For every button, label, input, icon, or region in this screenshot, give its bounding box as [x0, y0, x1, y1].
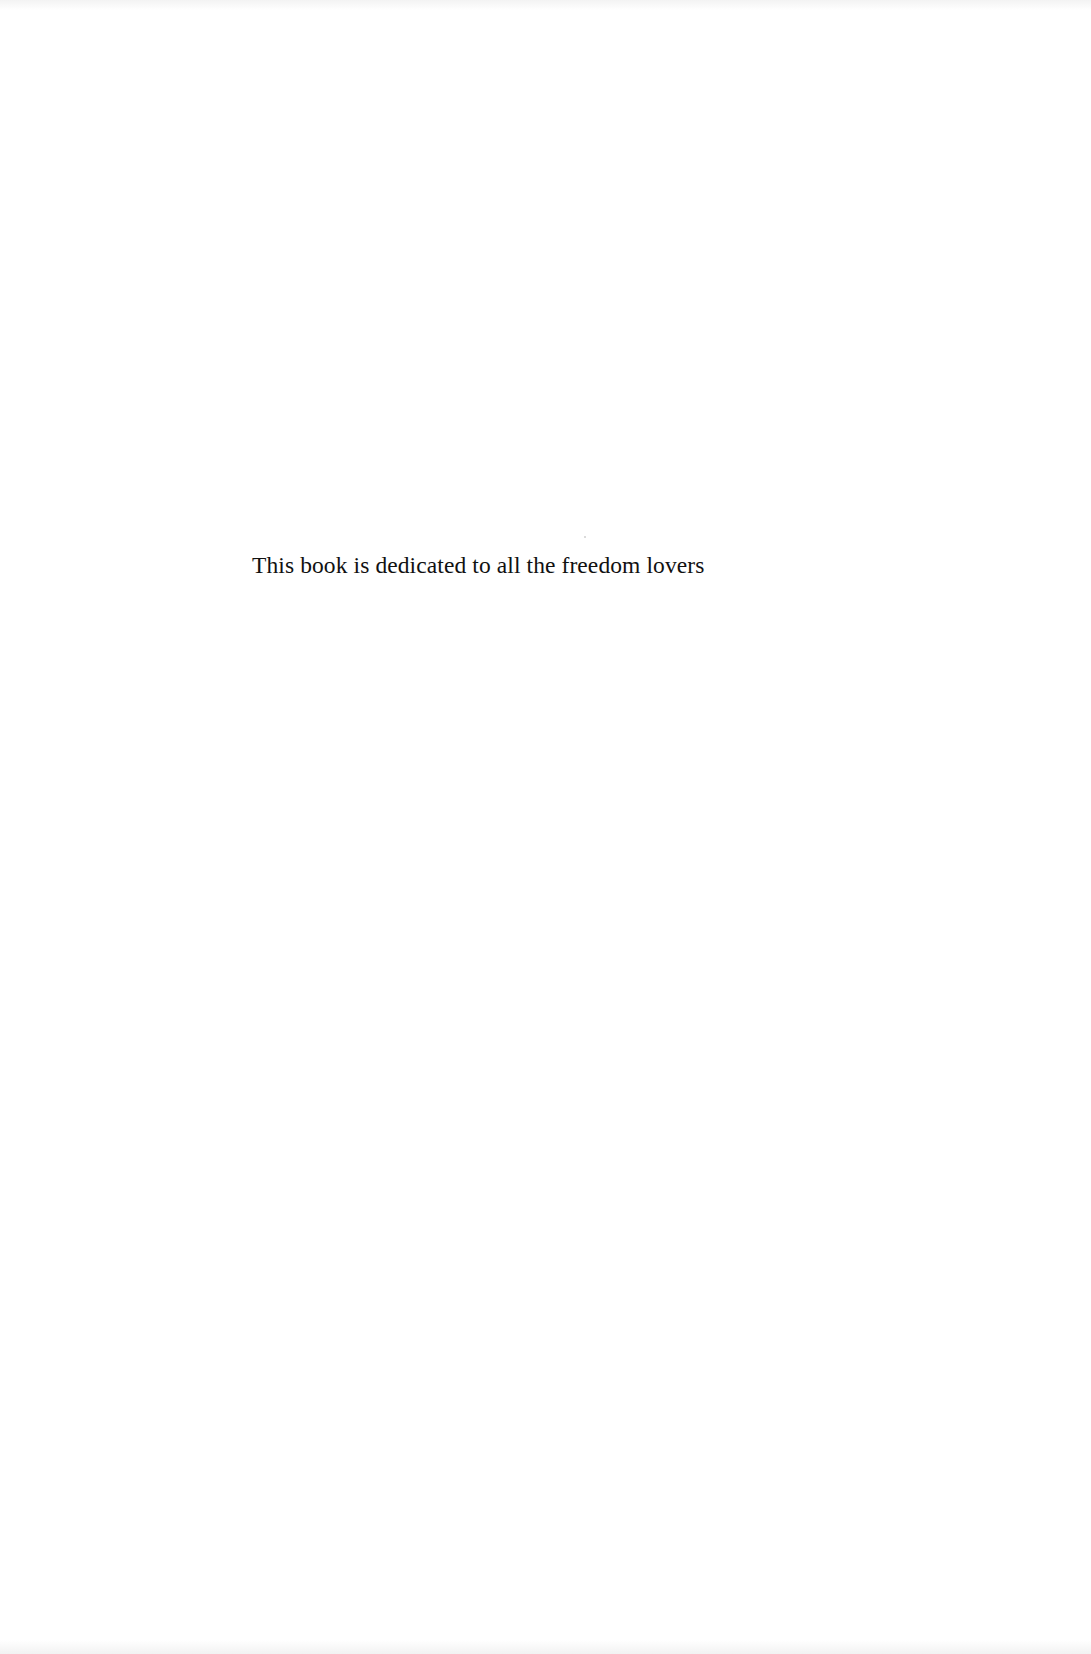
scan-speck	[584, 536, 586, 538]
scan-edge-top	[0, 0, 1091, 10]
book-page: This book is dedicated to all the freedo…	[0, 0, 1091, 1654]
scan-edge-bottom	[0, 1640, 1091, 1654]
dedication-text: This book is dedicated to all the freedo…	[252, 550, 704, 580]
